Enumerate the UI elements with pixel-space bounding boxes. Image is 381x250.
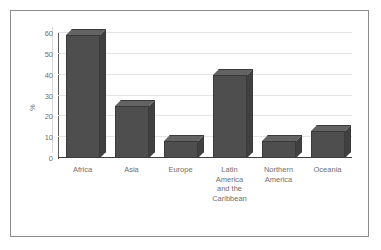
chart-frame: % 0102030405060 AfricaAsiaEuropeLatinAme… bbox=[10, 10, 369, 237]
bar-body bbox=[66, 35, 100, 158]
bar-front-face bbox=[213, 75, 247, 158]
x-label-line: Latin bbox=[202, 165, 258, 175]
bar-side-face bbox=[149, 100, 155, 158]
x-label-line: Caribbean bbox=[202, 194, 258, 204]
bar-body bbox=[213, 75, 247, 158]
x-label-africa: Africa bbox=[55, 165, 111, 175]
bar-front-face bbox=[262, 141, 296, 158]
x-label-latin-america-and-the-caribbean: LatinAmericaand theCaribbean bbox=[202, 165, 258, 203]
y-tick-label: 30 bbox=[45, 91, 53, 100]
x-label-line: and the bbox=[202, 184, 258, 194]
x-label-line: Northern bbox=[251, 165, 307, 175]
bar-body bbox=[311, 131, 345, 158]
bar-front-face bbox=[311, 131, 345, 158]
x-label-line: America bbox=[251, 175, 307, 185]
y-tick-label: 10 bbox=[45, 133, 53, 142]
bar-body bbox=[164, 141, 198, 158]
x-label-line: Asia bbox=[104, 165, 160, 175]
bar-front-face bbox=[66, 35, 100, 158]
x-label-oceania: Oceania bbox=[300, 165, 356, 175]
bar-side-face bbox=[247, 69, 253, 158]
x-label-line: America bbox=[202, 175, 258, 185]
x-label-line: Africa bbox=[55, 165, 111, 175]
x-label-europe: Europe bbox=[153, 165, 209, 175]
plot-area: 0102030405060 bbox=[58, 33, 352, 158]
bar-body bbox=[262, 141, 296, 158]
y-tick-label: 60 bbox=[45, 29, 53, 38]
bar-front-face bbox=[164, 141, 198, 158]
y-tick-label: 0 bbox=[49, 154, 53, 163]
x-label-line: Europe bbox=[153, 165, 209, 175]
x-label-northern-america: NorthernAmerica bbox=[251, 165, 307, 184]
x-label-line: Oceania bbox=[300, 165, 356, 175]
y-tick-label: 40 bbox=[45, 70, 53, 79]
y-tick-label: 50 bbox=[45, 49, 53, 58]
x-label-asia: Asia bbox=[104, 165, 160, 175]
y-axis-title: % bbox=[28, 104, 37, 111]
bar-body bbox=[115, 106, 149, 158]
bar-side-face bbox=[100, 29, 106, 158]
bar-front-face bbox=[115, 106, 149, 158]
y-tick-label: 20 bbox=[45, 112, 53, 121]
bar-side-face bbox=[345, 125, 351, 158]
